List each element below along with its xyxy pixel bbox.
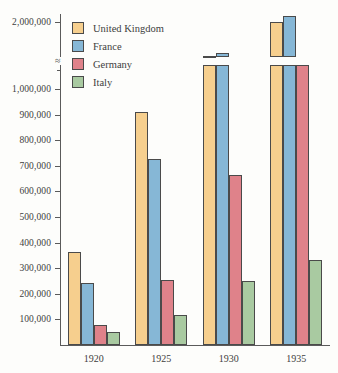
- bar-lower-segment: [296, 65, 309, 345]
- bar: [81, 283, 94, 345]
- bar-upper-segment: [216, 53, 229, 57]
- legend-item: Germany: [72, 55, 164, 73]
- legend-item: Italy: [72, 73, 164, 91]
- bar: [174, 315, 187, 345]
- y-tick-label: 600,000: [19, 186, 51, 196]
- bar: [68, 252, 81, 345]
- bar-upper-segment: [270, 22, 283, 57]
- legend-swatch-icon: [72, 40, 84, 52]
- legend-swatch-icon: [72, 22, 84, 34]
- bar-upper-segment: [283, 16, 296, 57]
- legend-label: Italy: [93, 77, 112, 88]
- y-tick-label: 200,000: [19, 289, 51, 299]
- bar-upper-segment: [203, 56, 216, 58]
- bar: [229, 175, 242, 345]
- legend-swatch-icon: [72, 76, 84, 88]
- bar-lower-segment: [203, 65, 216, 345]
- legend-swatch-icon: [72, 58, 84, 70]
- y-tick-label: 700,000: [19, 161, 51, 171]
- y-tick-label: 500,000: [19, 212, 51, 222]
- y-tick-label: 800,000: [19, 135, 51, 145]
- x-tick-label: 1930: [219, 353, 239, 364]
- bar-lower-segment: [270, 65, 283, 345]
- y-tick-label: 1,000,000: [12, 84, 51, 94]
- legend-label: United Kingdom: [93, 23, 164, 34]
- bar: [242, 281, 255, 345]
- legend-label: Germany: [93, 59, 132, 70]
- bar: [309, 260, 322, 345]
- bar: [94, 325, 107, 345]
- bar-lower-segment: [216, 65, 229, 345]
- bar: [107, 332, 120, 345]
- x-tick-label: 1920: [84, 353, 104, 364]
- x-tick-label: 1925: [151, 353, 171, 364]
- bar: [161, 280, 174, 345]
- bar: [135, 112, 148, 345]
- y-tick-label: 400,000: [19, 238, 51, 248]
- legend: United KingdomFranceGermanyItaly: [72, 19, 164, 91]
- legend-item: France: [72, 37, 164, 55]
- x-tick-label: 1935: [286, 353, 306, 364]
- x-axis-line: [60, 345, 330, 346]
- legend-label: France: [93, 41, 122, 52]
- y-tick-label: 900,000: [19, 110, 51, 120]
- y-tick-label: 300,000: [19, 263, 51, 273]
- y-tick-label: 100,000: [19, 314, 51, 324]
- y-tick-label: 2,000,000: [12, 17, 51, 27]
- bar: [148, 159, 161, 345]
- bar-chart: 100,000200,000300,000400,000500,000600,0…: [0, 0, 338, 373]
- legend-item: United Kingdom: [72, 19, 164, 37]
- bar-lower-segment: [283, 65, 296, 345]
